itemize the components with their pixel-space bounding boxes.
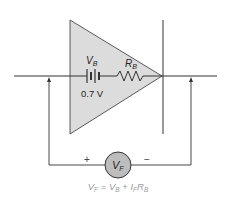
formula: VF = VB + IFRB <box>88 181 149 193</box>
plus-sign: + <box>84 154 90 165</box>
resistor-subscript: B <box>132 63 137 70</box>
probe-lead-right <box>131 80 191 165</box>
diode-triangle <box>70 20 162 134</box>
arrow-up-icon <box>47 77 51 82</box>
minus-sign: − <box>144 154 150 165</box>
battery-subscript: B <box>93 60 98 67</box>
arrow-up-icon <box>189 77 193 82</box>
diode-equivalent-circuit: VF + − VB 0.7 V RB VF = VB + IFRB <box>0 0 227 202</box>
battery-value: 0.7 V <box>81 88 104 99</box>
meter-subscript: F <box>119 165 124 172</box>
resistor-symbol: R <box>125 58 132 69</box>
